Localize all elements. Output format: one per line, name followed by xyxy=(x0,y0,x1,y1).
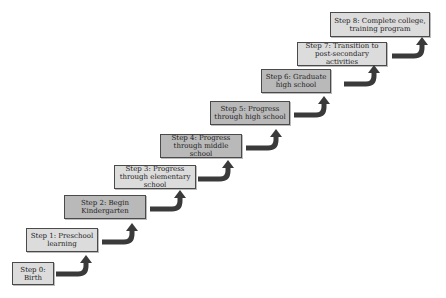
arrow-icon xyxy=(246,129,282,148)
arrow-icon xyxy=(102,223,138,242)
arrow-icon xyxy=(198,160,234,179)
arrow-icon xyxy=(392,37,428,56)
arrow-icon xyxy=(344,65,380,84)
arrow-icon xyxy=(294,96,330,115)
curved-arrow-icons xyxy=(0,0,446,298)
arrow-icon xyxy=(56,255,92,274)
arrow-icon xyxy=(150,190,186,209)
